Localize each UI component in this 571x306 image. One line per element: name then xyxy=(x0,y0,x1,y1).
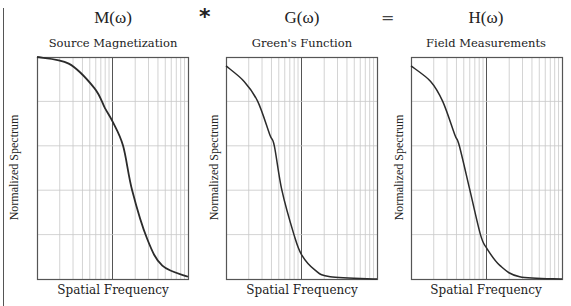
y-axis-label: Normalized Spectrum xyxy=(392,57,407,279)
panel-title: Field Measurements xyxy=(401,36,571,50)
panel-title: Green's Function xyxy=(217,36,387,50)
left-border-rule xyxy=(3,8,4,306)
x-axis-label: Spatial Frequency xyxy=(222,283,382,297)
chart-plot-area xyxy=(411,57,563,280)
panel-symbol: M(ω) xyxy=(33,8,193,28)
panel-symbol: H(ω) xyxy=(406,8,566,28)
x-axis-label: Spatial Frequency xyxy=(33,283,193,297)
chart-plot-area xyxy=(226,57,378,280)
y-axis-label: Normalized Spectrum xyxy=(207,57,222,279)
y-axis-label: Normalized Spectrum xyxy=(7,57,22,279)
chart-plot-area xyxy=(37,57,189,280)
convolution-operator: * xyxy=(199,4,211,29)
panel-title: Source Magnetization xyxy=(28,36,198,50)
equals-operator: = xyxy=(381,8,394,27)
panel-symbol: G(ω) xyxy=(222,8,382,28)
x-axis-label: Spatial Frequency xyxy=(406,283,566,297)
